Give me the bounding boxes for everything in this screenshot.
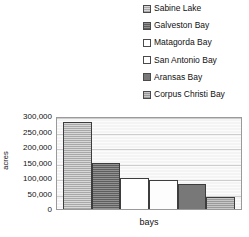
- bar-chart: acres 300,000250,000200,000150,000100,00…: [0, 112, 249, 237]
- legend-label-matagorda-bay: Matagorda Bay: [154, 38, 212, 47]
- legend-item-galveston-bay[interactable]: Galveston Bay: [143, 17, 249, 34]
- y-axis-tick: 0: [48, 206, 52, 214]
- legend-swatch-icon-san-antonio-bay: [143, 56, 151, 64]
- legend-item-matagorda-bay[interactable]: Matagorda Bay: [143, 34, 249, 51]
- y-axis-tick: 250,000: [23, 129, 52, 137]
- y-axis-tick: 150,000: [23, 160, 52, 168]
- plot-area: [56, 117, 242, 210]
- legend-swatch-icon-aransas-bay: [143, 73, 151, 81]
- legend-item-aransas-bay[interactable]: Aransas Bay: [143, 69, 249, 86]
- y-axis-tick: 50,000: [28, 191, 52, 199]
- bar-matagorda-bay[interactable]: [120, 178, 149, 209]
- legend-item-corpus-christi-bay[interactable]: Corpus Christi Bay: [143, 86, 249, 103]
- y-axis-tick: 200,000: [23, 144, 52, 152]
- legend-swatch-icon-corpus-christi-bay: [143, 91, 151, 99]
- legend-swatch-icon-matagorda-bay: [143, 39, 151, 47]
- legend-label-corpus-christi-bay: Corpus Christi Bay: [154, 90, 225, 99]
- bar-sabine-lake[interactable]: [63, 122, 92, 209]
- legend-label-sabine-lake: Sabine Lake: [154, 4, 201, 13]
- y-axis-tick: 300,000: [23, 113, 52, 121]
- legend-label-galveston-bay: Galveston Bay: [154, 21, 209, 30]
- y-axis-tick-labels: 300,000250,000200,000150,000100,00050,00…: [8, 117, 52, 215]
- x-axis-label: bays: [56, 217, 242, 227]
- bar-galveston-bay[interactable]: [92, 163, 121, 210]
- bar-series: [57, 118, 241, 209]
- legend-swatch-icon-sabine-lake: [143, 5, 151, 13]
- y-axis-tick: 100,000: [23, 175, 52, 183]
- legend-item-sabine-lake[interactable]: Sabine Lake: [143, 0, 249, 17]
- legend-label-aransas-bay: Aransas Bay: [154, 73, 202, 82]
- chart-legend: Sabine Lake Galveston Bay Matagorda Bay …: [143, 0, 249, 110]
- bar-san-antonio-bay[interactable]: [149, 180, 178, 209]
- legend-label-san-antonio-bay: San Antonio Bay: [154, 56, 217, 65]
- legend-item-san-antonio-bay[interactable]: San Antonio Bay: [143, 52, 249, 69]
- legend-swatch-icon-galveston-bay: [143, 22, 151, 30]
- bar-aransas-bay[interactable]: [178, 184, 207, 209]
- bar-corpus-christi-bay[interactable]: [206, 197, 235, 209]
